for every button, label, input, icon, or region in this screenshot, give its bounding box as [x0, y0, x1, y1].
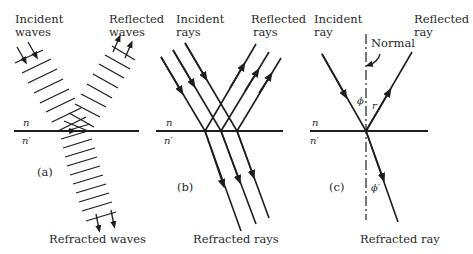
incident-arrow-icon: [17, 47, 25, 61]
incident-rays-label-line1: Incident: [176, 12, 225, 26]
reflected-rays: [205, 44, 281, 131]
incident-waves-label-line2: waves: [15, 25, 51, 39]
angle-phi-label: ϕ: [357, 95, 364, 106]
incident-waves-label-line1: Incident: [15, 12, 64, 26]
incident-ray-arrow-icon: [322, 54, 345, 95]
reflected-ray-arrow-icon: [259, 76, 270, 93]
refracted-rays: [205, 131, 269, 231]
n-label-b: n: [166, 117, 172, 128]
panel-b: Incident rays Reflected rays n n′: [156, 12, 307, 246]
reflected-ray-label-line1: Reflected: [414, 12, 470, 26]
incident-ray-label-line2: ray: [314, 25, 333, 39]
reflected-ray-arrow-icon: [366, 92, 389, 131]
reflected-rays-label-line1: Reflected: [251, 12, 307, 26]
n-label-c: n: [312, 117, 318, 128]
refracted-rays-label: Refracted rays: [193, 232, 279, 246]
n-prime-label-a: n′: [22, 135, 31, 146]
reflected-wavefronts: [64, 38, 135, 131]
incident-ray-arrow-icon: [161, 57, 181, 91]
incident-ray-label-line1: Incident: [314, 12, 363, 26]
reflected-rays-label-line2: rays: [253, 25, 278, 39]
refracted-wavefronts: [61, 131, 116, 229]
angle-phi-prime-label: ϕ′: [371, 182, 381, 193]
refracted-waves-label: Refracted waves: [49, 232, 146, 246]
n-label-a: n: [23, 117, 29, 128]
panel-a-caption: (a): [37, 165, 53, 179]
panel-c-caption: (c): [329, 180, 344, 194]
incident-rays-label-line2: rays: [176, 25, 201, 39]
refracted-arrow-icon: [96, 214, 99, 229]
n-prime-label-c: n′: [310, 135, 319, 146]
panel-a: Incident waves Reflected waves n n′: [14, 12, 165, 246]
reflected-ray-label-line2: ray: [414, 25, 433, 39]
n-prime-label-b: n′: [164, 135, 173, 146]
angle-r-label: r: [372, 100, 378, 111]
reflected-waves-label-line1: Reflected: [109, 12, 165, 26]
reflected-ray-arrow-icon: [230, 66, 243, 88]
refracted-ray-label: Refracted ray: [360, 232, 440, 246]
incident-arrow-icon: [28, 42, 36, 56]
incident-ray-arrow-icon: [173, 50, 193, 84]
refracted-ray-arrow-icon: [237, 131, 253, 175]
refraction-reflection-diagram: Incident waves Reflected waves n n′: [0, 0, 473, 254]
refracted-ray-arrow-icon: [366, 131, 383, 178]
reflected-waves-label-line2: waves: [109, 25, 145, 39]
incident-ray-arrow-icon: [185, 43, 205, 77]
panel-c: Incident ray Reflected ray n n′ Normal ϕ…: [310, 12, 470, 246]
normal-pointer-arrow-icon: [369, 54, 380, 65]
reflected-ray-arrow-icon: [245, 72, 257, 91]
refracted-ray-arrow-icon: [205, 131, 223, 184]
normal-label: Normal: [371, 36, 415, 50]
refracted-ray-arrow-icon: [221, 131, 239, 180]
panel-b-caption: (b): [177, 180, 193, 194]
